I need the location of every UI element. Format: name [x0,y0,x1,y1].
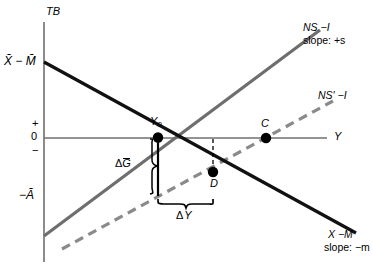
point-y0-label: Y0 [150,116,162,129]
point-y0-marker [153,132,163,142]
point-y0-subscript: 0 [157,120,161,129]
delta-y-label: ΔY [176,210,192,221]
a-intercept-label: −Ā [19,189,34,201]
x-minus-m-label: X −M [328,229,353,240]
delta-y-delta: Δ [176,209,183,221]
point-c-marker [261,133,271,143]
tick-zero-label: 0 [31,131,37,142]
x-minus-m-line [44,62,356,233]
ns-minus-i-line [44,30,320,236]
delta-y-brace [158,199,213,208]
point-d-marker [208,167,218,177]
delta-y-variable: Y [184,209,191,221]
delta-g-brace [150,139,157,194]
x-minus-m-slope-label: slope: −m [324,242,370,253]
chart-canvas: TB Y X̄ − M̄ −Ā + 0 − NS −I slope: +s N… [0,0,373,270]
delta-g-variable: G [122,158,131,169]
delta-g-label: ΔG [115,158,131,169]
x-axis-title: Y [334,131,341,142]
tick-minus-label: − [32,145,38,156]
ns-minus-i-slope-label: slope: +s [303,35,345,46]
y-axis-title: TB [46,6,60,17]
xm-intercept-label: X̄ − M̄ [4,55,36,67]
delta-g-delta: Δ [115,157,122,169]
ns-minus-i-label: NS −I [303,22,330,33]
point-d-label: D [210,178,218,189]
ns-prime-minus-i-label: NS' −I [318,90,347,101]
point-c-label: C [261,118,269,129]
tick-plus-label: + [32,118,38,129]
